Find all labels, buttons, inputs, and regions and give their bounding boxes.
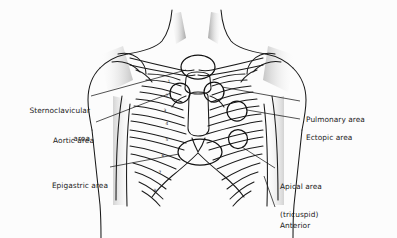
neck-left-contour [127,10,172,54]
diagram-page: 1 2 3 4 5 6 7 8 [0,0,397,238]
label-ectopic: Ectopic area [306,115,396,161]
label-apical-line1: Apical area [280,182,390,191]
label-sternoclavicular-line1: Sternoclavicular [8,106,90,115]
neck-shadow-right [208,12,222,44]
rib-3-right [210,99,257,110]
neck-shadow-left [171,12,186,44]
rib-4-right-b [207,121,262,134]
epigastric-marker [178,139,222,165]
label-anterior-precordium-line1: Anterior [280,221,392,230]
rib-2-left [142,86,181,95]
rib-number-5: 5 [166,137,169,142]
label-aortic-line1: Aortic area [12,136,94,145]
rib-3-left [136,99,183,110]
rib-5-left-b [130,137,184,150]
shoulder-shadow-left [100,46,133,92]
apical-marker [229,130,248,149]
rib-7-right [222,163,260,180]
costal-margin-left [152,153,198,197]
rib-number-4: 4 [166,121,169,126]
leader-aortic [96,93,171,122]
rib-4-left-b [131,121,186,134]
neck-right-contour [221,10,266,54]
rib-2-right [212,86,251,95]
rib-number-7: 7 [159,170,162,175]
body-outline-group [88,10,306,238]
shoulder-right-outline [293,68,306,130]
costal-margin-right [198,153,244,197]
label-aortic: Aortic area [12,118,94,164]
rib-number-8: 8 [154,188,157,193]
xiphoid [192,138,205,152]
label-anterior-precordium: Anterior precordium area [280,203,392,238]
rib-6-left [130,146,180,160]
rib-number-3: 3 [164,108,167,113]
rib-number-1: 1 [168,79,171,84]
label-ectopic-line1: Ectopic area [306,133,396,142]
label-epigastric-line1: Epigastric area [22,181,108,190]
rib-7-left [133,163,171,180]
label-epigastric: Epigastric area [22,163,108,209]
rib-1-right [213,74,245,80]
